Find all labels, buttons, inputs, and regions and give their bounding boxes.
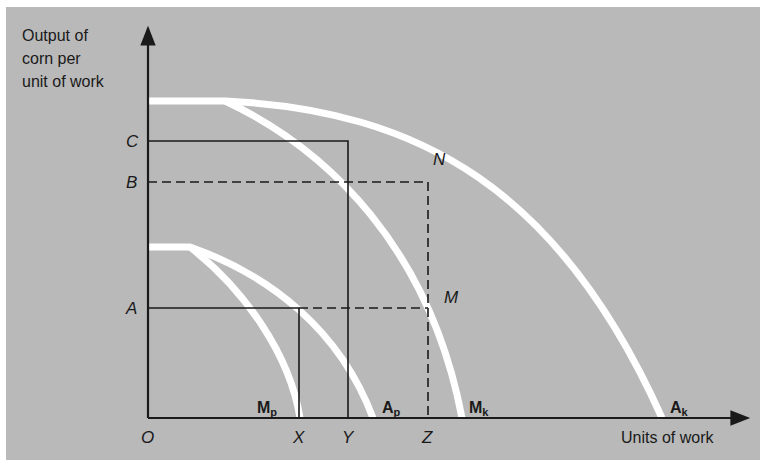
label-z: Z: [421, 428, 433, 447]
y-axis-title-line-1: Output of: [22, 27, 88, 44]
label-y: Y: [342, 428, 355, 447]
label-a: A: [125, 299, 137, 318]
label-m: M: [444, 288, 459, 307]
label-curve-ak: Ak: [670, 399, 689, 418]
production-curves-diagram: Output of corn per unit of work Units of…: [0, 0, 764, 473]
label-b: B: [126, 173, 137, 192]
y-axis-title-line-2: corn per: [22, 50, 81, 67]
label-curve-mp: Mp: [257, 399, 277, 418]
rect-a-x: [148, 308, 299, 418]
x-axis-title: Units of work: [621, 429, 714, 446]
label-x: X: [292, 428, 305, 447]
label-curve-mk: Mk: [469, 399, 489, 418]
label-origin: O: [141, 428, 154, 447]
label-c: C: [126, 132, 139, 151]
curves: [148, 101, 662, 418]
y-axis-title-line-3: unit of work: [22, 73, 105, 90]
curve-ap: [148, 247, 373, 418]
label-curve-ap: Ap: [382, 399, 401, 418]
label-n: N: [433, 150, 446, 169]
